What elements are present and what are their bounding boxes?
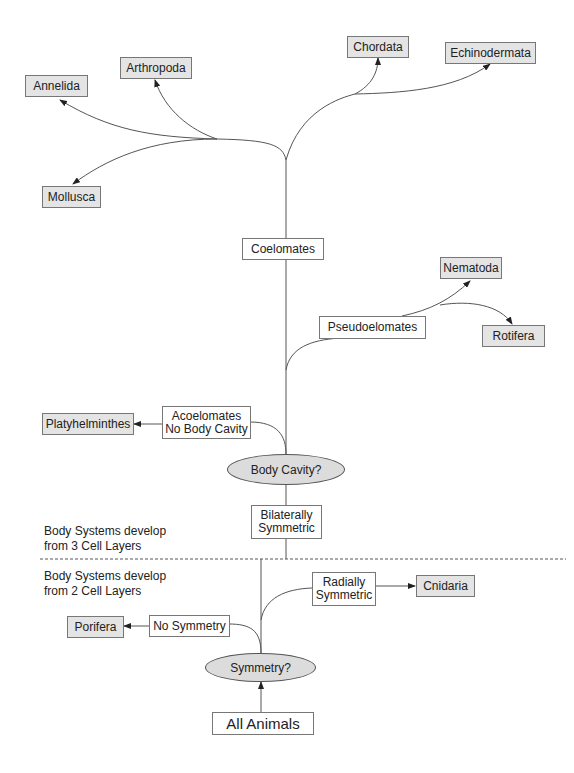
phylum-platyhelminthes: Platyhelminthes: [42, 413, 134, 435]
phylum-cnidaria: Cnidaria: [416, 575, 475, 597]
phylum-arthropoda: Arthropoda: [120, 57, 192, 79]
decision-body-cavity: Body Cavity?: [227, 454, 345, 485]
phylum-echinodermata: Echinodermata: [445, 42, 536, 64]
group-no-symmetry: No Symmetry: [149, 615, 230, 637]
group-pseudoelomates: Pseudoelomates: [319, 316, 426, 339]
group-radially-symmetric: Radially Symmetric: [312, 572, 376, 606]
note-three-cell-layers: Body Systems develop from 3 Cell Layers: [44, 524, 166, 554]
decision-symmetry: Symmetry?: [205, 653, 316, 682]
phylum-rotifera: Rotifera: [482, 325, 545, 347]
group-bilaterally-symmetric: Bilaterally Symmetric: [251, 505, 322, 539]
root-all-animals: All Animals: [212, 712, 314, 735]
phylum-chordata: Chordata: [347, 36, 409, 58]
group-coelomates: Coelomates: [242, 238, 324, 260]
phylum-annelida: Annelida: [25, 75, 88, 97]
phylum-nematoda: Nematoda: [440, 257, 502, 279]
note-two-cell-layers: Body Systems develop from 2 Cell Layers: [44, 569, 166, 599]
phylum-mollusca: Mollusca: [42, 186, 101, 208]
group-acoelomates: Acoelomates No Body Cavity: [162, 406, 251, 439]
phylum-porifera: Porifera: [67, 616, 124, 638]
